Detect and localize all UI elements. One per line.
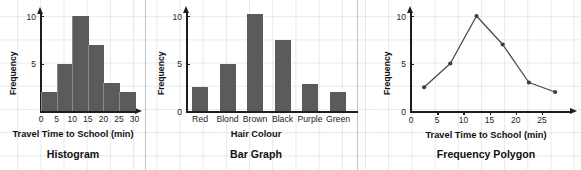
polygon-data-point-5 (553, 90, 557, 94)
histogram-xlabel-25: 25 (111, 114, 127, 124)
histogram-x-axis (40, 111, 136, 113)
polygon-data-point-3 (501, 42, 505, 46)
bargraph-y-axis (186, 13, 188, 112)
histogram-bar-0-5 (41, 92, 58, 111)
bargraph-ylabel-0: 0 (166, 107, 182, 117)
bargraph-bar-red (192, 87, 208, 111)
bargraph-ytick-5 (186, 64, 190, 65)
histogram-bar-5-10 (57, 64, 74, 112)
histogram-xlabel-5: 5 (49, 114, 65, 124)
polygon-data-point-0 (422, 85, 426, 89)
panel-frequency-polygon: Frequency 0 5 10 0 5 10 15 20 25 Travel … (358, 0, 581, 170)
histogram-bar-15-20 (88, 45, 105, 112)
bargraph-bar-black (275, 40, 291, 111)
histogram-ylabel-10: 10 (14, 12, 36, 22)
histogram-ytick-5 (40, 64, 44, 65)
panel-histogram: Frequency 5 10 0 5 10 15 20 25 30 Travel… (0, 0, 146, 170)
bargraph-xlabel-green: Green (322, 114, 354, 124)
histogram-bar-10-15 (72, 16, 89, 111)
polygon-data-point-1 (448, 61, 452, 65)
histogram-bar-25-30 (119, 92, 136, 111)
bargraph-y-axis-title: Frequency (156, 52, 166, 95)
bargraph-x-axis (186, 111, 358, 113)
bargraph-title: Bar Graph (176, 148, 336, 160)
polygon-x-axis-title: Travel Time to School (min) (401, 130, 571, 140)
histogram-x-axis-title: Travel Time to School (min) (3, 129, 143, 139)
histogram-xlabel-10: 10 (64, 114, 80, 124)
bargraph-bar-green (330, 92, 346, 111)
polygon-title: Frequency Polygon (396, 148, 576, 160)
polygon-data-point-2 (474, 14, 478, 18)
histogram-xlabel-0: 0 (33, 114, 49, 124)
histogram-ytick-10 (40, 16, 44, 17)
histogram-xlabel-15: 15 (80, 114, 96, 124)
histogram-y-axis-title: Frequency (8, 52, 18, 95)
bargraph-ytick-10 (186, 16, 190, 17)
histogram-xlabel-30: 30 (127, 114, 143, 124)
bargraph-y-axis-arrow-icon (183, 6, 189, 13)
histogram-bar-20-25 (103, 83, 120, 112)
figure-three-charts: Frequency 5 10 0 5 10 15 20 25 30 Travel… (0, 0, 581, 170)
polygon-series-line (358, 0, 581, 170)
bargraph-bar-blond (220, 64, 236, 112)
histogram-y-axis-arrow-icon (37, 7, 43, 14)
bargraph-bar-brown (247, 14, 263, 111)
polygon-data-point-4 (527, 80, 531, 84)
panel-bar-graph: Frequency 0 5 10 Red Blond Brown Black P… (146, 0, 358, 170)
bargraph-xlabel-red: Red (186, 114, 214, 124)
bargraph-xlabel-blond: Blond (213, 114, 243, 124)
histogram-title: Histogram (3, 148, 143, 160)
histogram-ylabel-5: 5 (18, 59, 36, 69)
bargraph-x-axis-title: Hair Colour (176, 129, 336, 139)
bargraph-bar-purple (302, 84, 318, 111)
bargraph-ylabel-10: 10 (160, 12, 182, 22)
bargraph-xlabel-brown: Brown (239, 114, 271, 124)
histogram-xlabel-20: 20 (95, 114, 111, 124)
bargraph-ylabel-5: 5 (164, 59, 182, 69)
